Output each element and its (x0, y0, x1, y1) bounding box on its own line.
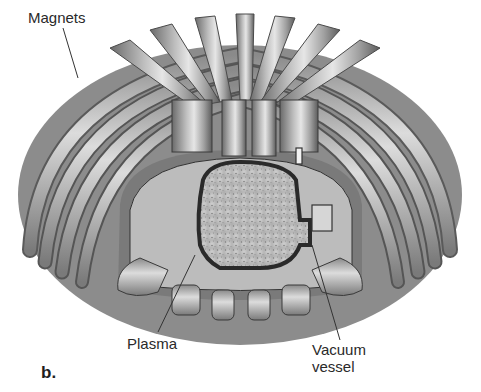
plasma-region (199, 162, 310, 268)
vacuum-vessel-label-line2: vessel (312, 358, 355, 375)
tokamak-diagram (0, 0, 481, 392)
vacuum-vessel-label-line1: Vacuum (312, 341, 366, 358)
panel-label: b. (41, 363, 56, 383)
magnets-label: Magnets (28, 9, 86, 26)
plasma-label: Plasma (127, 335, 177, 352)
